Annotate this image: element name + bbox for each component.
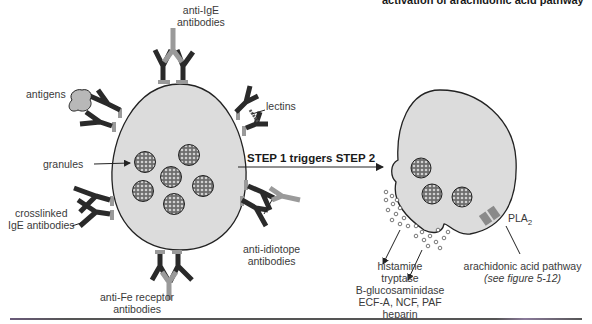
label-anti-idiotope: anti-idiotope antibodies [243, 243, 300, 267]
label-line: anti-Fe receptor [100, 291, 174, 303]
step-label: STEP 1 triggers STEP 2 [247, 152, 375, 164]
label-granules: granules [43, 158, 83, 170]
label-crosslinked-ige: crosslinked IgE antibodies [8, 207, 75, 231]
label-arachidonic-pathway: arachidonic acid pathway (see figure 5-1… [460, 260, 585, 284]
label-line: crosslinked [8, 207, 75, 219]
label-line: anti-IgE [177, 4, 225, 16]
activated-mast-cell [384, 90, 516, 250]
label-line: antibodies [177, 16, 225, 28]
mediator-item: histamine [352, 260, 448, 272]
enzyme-name: PLA [508, 212, 528, 224]
label-line: antibodies [243, 255, 300, 267]
figure-reference: (see figure 5-12) [460, 272, 585, 284]
label-pla2: PLA2 [508, 212, 532, 229]
resting-mast-cell [112, 84, 246, 250]
mediator-item: tryptase [352, 272, 448, 284]
label-anti-fc-receptor: anti-Fe receptor antibodies [100, 291, 174, 315]
mediator-list: histamine tryptase B-glucosaminidase ECF… [352, 260, 448, 320]
label-line: antibodies [100, 303, 174, 315]
label-lectins: lectins [266, 100, 296, 112]
bottom-divider [10, 318, 582, 320]
mediator-item: ECF-A, NCF, PAF [352, 296, 448, 308]
label-line: IgE antibodies [8, 219, 75, 231]
pathway-label: arachidonic acid pathway [460, 260, 585, 272]
mediator-item: B-glucosaminidase [352, 284, 448, 296]
label-line: anti-idiotope [243, 243, 300, 255]
label-anti-ige: anti-IgE antibodies [177, 4, 225, 28]
enzyme-subscript: 2 [528, 218, 532, 227]
label-antigens: antigens [26, 88, 66, 100]
